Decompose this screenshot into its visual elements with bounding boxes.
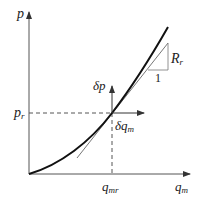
characteristic-curve <box>29 27 168 174</box>
y-axis-label: p <box>16 6 24 21</box>
run-one-label: 1 <box>155 71 161 85</box>
x-axis-label: qm <box>175 179 189 195</box>
pressure-flow-diagram: p qm pr qmr δp δqm Rr 1 <box>0 0 200 199</box>
rr-label: Rr <box>170 51 184 67</box>
dq-label: δqm <box>115 118 135 134</box>
qmr-label: qmr <box>102 179 119 195</box>
pr-label: pr <box>13 105 25 121</box>
dp-label: δp <box>93 78 106 93</box>
